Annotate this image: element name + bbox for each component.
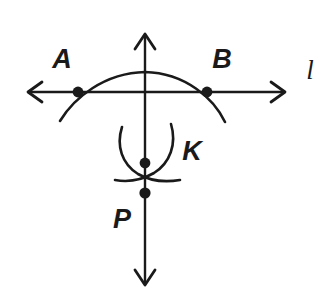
- point-p-label: P: [113, 204, 132, 234]
- point-a-label: A: [51, 44, 72, 74]
- point-b-dot: [202, 87, 213, 98]
- geometry-canvas: A B K P l: [0, 0, 331, 302]
- point-p-dot: [139, 187, 150, 198]
- point-k-dot: [140, 158, 151, 169]
- point-a-dot: [73, 87, 84, 98]
- line-l-group: [28, 82, 285, 102]
- point-k-label: K: [182, 136, 204, 166]
- line-l-label: l: [306, 55, 314, 85]
- arc-through-a-and-b: [60, 72, 225, 122]
- point-b-label: B: [212, 44, 232, 74]
- geometry-diagram: A B K P l: [0, 0, 331, 302]
